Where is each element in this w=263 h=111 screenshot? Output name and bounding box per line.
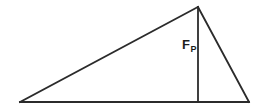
force-label-subscript: P (190, 44, 196, 54)
force-label-symbol: F (182, 37, 190, 52)
force-triangle-diagram: FP (0, 0, 263, 111)
force-label: FP (170, 38, 196, 62)
diagram-canvas (0, 0, 263, 111)
triangle-right-edge (198, 7, 249, 102)
